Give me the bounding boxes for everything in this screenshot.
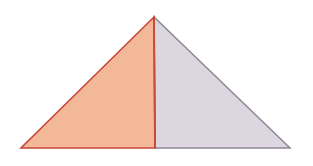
left-triangle-region <box>21 17 155 148</box>
triangle-diagram <box>0 0 313 166</box>
right-triangle-region <box>154 17 290 148</box>
altitude-line <box>154 17 155 148</box>
